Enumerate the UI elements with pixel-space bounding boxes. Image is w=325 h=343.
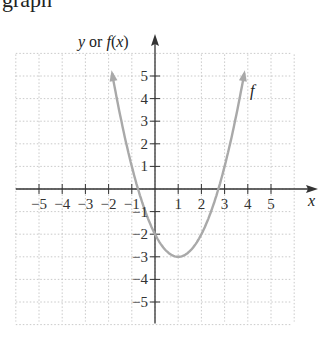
x-tick-label: 5 [267,196,275,212]
y-axis-label: y or f(x) [76,33,129,51]
curve-label-f: f [250,82,257,100]
x-tick-label: 4 [244,196,252,212]
y-tick-label: −5 [132,294,148,310]
x-tick-label: −3 [77,196,93,212]
y-tick-label: −1 [132,204,148,220]
parabola-chart: −5−4−3−2−112345−5−4−3−2−112345y or f(x)x… [0,0,325,343]
y-tick-label: 5 [141,68,149,84]
x-tick-label: −4 [54,196,70,212]
curve-left-arrow-icon [110,70,118,82]
x-tick-label: 2 [198,196,206,212]
x-tick-label: 3 [221,196,229,212]
x-tick-label: −5 [31,196,47,212]
x-tick-label: 1 [174,196,182,212]
y-tick-label: −4 [132,271,148,287]
x-tick-label: −2 [101,196,117,212]
y-tick-label: 4 [141,91,149,107]
y-tick-label: 3 [141,113,149,129]
x-axis-label: x [307,192,315,209]
y-tick-label: 1 [141,158,149,174]
y-tick-label: −3 [132,249,148,265]
y-tick-label: −2 [132,226,148,242]
axes [16,34,318,324]
y-tick-label: 2 [141,136,149,152]
labels: −5−4−3−2−112345−5−4−3−2−112345y or f(x)x… [31,33,315,310]
